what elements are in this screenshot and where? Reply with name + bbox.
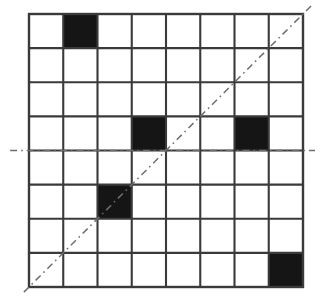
- grid-cell-empty: [132, 82, 166, 116]
- grid-cell-empty: [200, 151, 234, 185]
- grid-cell-empty: [166, 14, 200, 48]
- grid-cell-empty: [166, 151, 200, 185]
- grid-cell-empty: [166, 48, 200, 82]
- grid-cell-empty: [269, 151, 303, 185]
- grid-cell-empty: [166, 116, 200, 150]
- grid-cell-empty: [98, 116, 132, 150]
- grid-cell-filled: [235, 116, 269, 150]
- grid-cell-empty: [269, 48, 303, 82]
- grid-cell-empty: [98, 151, 132, 185]
- grid-cell-empty: [98, 82, 132, 116]
- grid-cell-empty: [166, 219, 200, 253]
- grid-cell-empty: [63, 253, 97, 287]
- grid-cell-empty: [235, 151, 269, 185]
- grid-cell-empty: [235, 185, 269, 219]
- grid-cell-empty: [235, 14, 269, 48]
- grid-cell-empty: [166, 82, 200, 116]
- grid-cell-empty: [29, 14, 63, 48]
- grid-cell-empty: [29, 253, 63, 287]
- grid-cell-empty: [166, 253, 200, 287]
- grid-cell-filled: [269, 253, 303, 287]
- grid-cell-empty: [98, 219, 132, 253]
- grid-cell-empty: [29, 48, 63, 82]
- grid-cell-empty: [200, 14, 234, 48]
- grid-cell-empty: [200, 185, 234, 219]
- grid-cell-empty: [132, 48, 166, 82]
- grid-cell-empty: [166, 185, 200, 219]
- grid-cell-empty: [269, 185, 303, 219]
- grid-cell-empty: [29, 219, 63, 253]
- grid-cell-empty: [200, 82, 234, 116]
- figure-canvas: [0, 0, 320, 298]
- grid-cell-empty: [63, 151, 97, 185]
- grid-cell-empty: [132, 151, 166, 185]
- grid-cell-empty: [29, 82, 63, 116]
- grid-cell-empty: [132, 185, 166, 219]
- grid-figure: [0, 0, 320, 298]
- grid-cell-empty: [63, 185, 97, 219]
- grid-cell-empty: [132, 253, 166, 287]
- grid-cell-empty: [29, 116, 63, 150]
- grid-cell-empty: [269, 219, 303, 253]
- grid-cell-filled: [63, 14, 97, 48]
- grid-cell-empty: [235, 253, 269, 287]
- grid-cell-empty: [132, 219, 166, 253]
- grid-cell-empty: [200, 116, 234, 150]
- grid-cell-empty: [63, 82, 97, 116]
- grid-cell-filled: [132, 116, 166, 150]
- grid-cell-empty: [98, 253, 132, 287]
- grid-cell-empty: [98, 14, 132, 48]
- grid-cell-empty: [63, 48, 97, 82]
- grid-cell-empty: [269, 82, 303, 116]
- grid-cell-empty: [29, 151, 63, 185]
- grid-cell-empty: [200, 253, 234, 287]
- grid-cell-empty: [98, 48, 132, 82]
- grid-cell-empty: [200, 219, 234, 253]
- grid-cell-empty: [132, 14, 166, 48]
- grid-cell-empty: [235, 82, 269, 116]
- grid-cell-empty: [63, 219, 97, 253]
- grid-cell-empty: [269, 116, 303, 150]
- grid-cell-empty: [63, 116, 97, 150]
- grid-cell-empty: [29, 185, 63, 219]
- grid-cell-empty: [235, 219, 269, 253]
- grid-cell-empty: [200, 48, 234, 82]
